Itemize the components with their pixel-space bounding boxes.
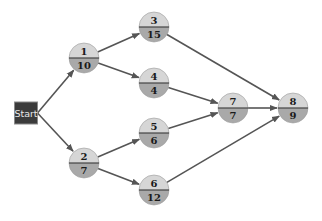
activity-id: 7	[230, 96, 237, 107]
activity-duration: 10	[77, 60, 91, 71]
activity-id: 6	[151, 178, 158, 189]
activity-duration: 9	[290, 110, 297, 121]
edge-4-to-7	[168, 88, 217, 104]
edge-3-to-8	[167, 35, 279, 100]
activity-node-5: 56	[139, 118, 169, 148]
activity-network-diagram: Start1102731544566127789	[0, 0, 322, 221]
activity-node-4: 44	[139, 68, 169, 98]
activity-id: 2	[81, 151, 88, 162]
activity-id: 3	[151, 15, 158, 26]
edge-1-to-4	[98, 63, 139, 78]
activity-node-1: 110	[69, 43, 99, 73]
activity-node-8: 89	[278, 93, 308, 123]
edge-5-to-7	[168, 113, 217, 129]
activity-id: 8	[290, 96, 297, 107]
activity-node-6: 612	[139, 175, 169, 205]
edge-2-to-6	[98, 168, 139, 184]
activity-id: 4	[151, 71, 158, 82]
edge-start-to-1	[38, 70, 74, 113]
edge-2-to-5	[98, 139, 140, 157]
activity-duration: 4	[151, 85, 158, 96]
start-label: Start	[14, 108, 37, 119]
activity-duration: 12	[147, 192, 161, 203]
activity-node-3: 315	[139, 12, 169, 42]
activity-duration: 7	[230, 110, 237, 121]
activity-duration: 7	[81, 165, 88, 176]
start-node: Start	[14, 102, 37, 124]
activity-node-2: 27	[69, 148, 99, 178]
edge-1-to-3	[98, 33, 140, 51]
activity-duration: 15	[147, 29, 161, 40]
activity-id: 1	[81, 46, 88, 57]
activity-duration: 6	[151, 135, 158, 146]
activity-id: 5	[151, 121, 158, 132]
activity-node-7: 77	[218, 93, 248, 123]
edge-6-to-8	[167, 116, 279, 182]
edge-start-to-2	[38, 113, 74, 151]
